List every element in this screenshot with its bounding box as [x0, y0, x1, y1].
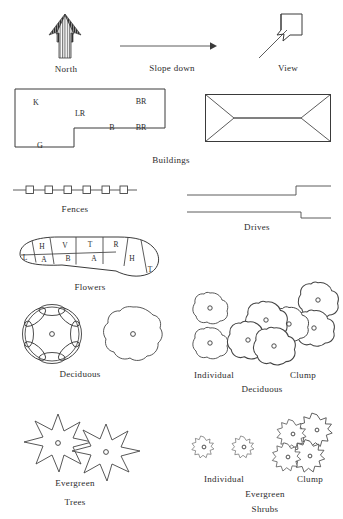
room-label-k: K	[33, 98, 39, 107]
deciduous-shrub-symbols	[186, 288, 338, 368]
deciduous-trees-caption: Deciduous	[59, 369, 100, 379]
flowers-caption: Flowers	[74, 282, 105, 292]
evergreen-clump	[272, 413, 332, 472]
evergreen-tree-symbols	[14, 412, 164, 474]
deciduous-group-caption: Deciduous	[241, 384, 282, 394]
buildings-caption: Buildings	[152, 155, 190, 165]
room-label-b: B	[109, 123, 114, 132]
svg-text:V: V	[62, 241, 68, 250]
legend-sheet: North Slope down View K LR BR B BR G Bui…	[0, 0, 343, 519]
deciduous-tree-scallop	[22, 304, 83, 363]
evergreen-shrubs-caption-line1: Evergreen	[245, 489, 285, 499]
slope-arrow-icon	[118, 36, 218, 56]
deciduous-clump-label: Clump	[290, 370, 316, 380]
deciduous-clump	[227, 282, 338, 365]
svg-text:A: A	[41, 255, 47, 264]
svg-text:R: R	[113, 240, 118, 249]
drives-symbol	[186, 184, 332, 220]
fence-symbol	[12, 182, 138, 198]
evergreen-individual-label: Individual	[204, 474, 244, 484]
svg-text:T: T	[88, 240, 93, 249]
svg-text:H: H	[39, 242, 45, 251]
flower-bed-symbol: L H V T R A B A H T	[10, 233, 168, 279]
svg-text:L: L	[23, 253, 28, 262]
deciduous-individual-2	[193, 327, 228, 358]
evergreen-tree-1	[24, 414, 92, 472]
evergreen-shrubs-caption-line2: Shrubs	[252, 504, 279, 514]
fences-caption: Fences	[62, 204, 89, 214]
view-arrow-icon	[253, 8, 315, 62]
deciduous-individual-label: Individual	[194, 370, 234, 380]
drives-caption: Drives	[244, 222, 270, 232]
evergreen-shrub-symbols	[176, 412, 338, 474]
evergreen-trees-caption-line1: Evergreen	[55, 478, 95, 488]
svg-text:A: A	[91, 254, 97, 263]
north-label: North	[55, 64, 78, 74]
room-label-g: G	[37, 141, 43, 150]
evergreen-tree-2	[72, 424, 140, 481]
svg-text:B: B	[65, 254, 70, 263]
deciduous-tree-bumpy	[104, 307, 163, 361]
svg-text:H: H	[129, 254, 135, 263]
slope-down-label: Slope down	[149, 63, 195, 73]
hip-roof-plan	[204, 93, 332, 143]
north-arrow-icon	[38, 8, 94, 64]
room-label-br-upper: BR	[136, 97, 147, 106]
room-label-lr: LR	[75, 109, 85, 118]
view-label: View	[278, 63, 298, 73]
evergreen-clump-label: Clump	[297, 474, 323, 484]
room-label-br-lower: BR	[136, 123, 147, 132]
deciduous-individual-1	[193, 292, 228, 323]
deciduous-tree-symbols	[14, 303, 174, 365]
svg-text:T: T	[148, 265, 153, 274]
evergreen-trees-caption-line2: Trees	[64, 497, 85, 507]
